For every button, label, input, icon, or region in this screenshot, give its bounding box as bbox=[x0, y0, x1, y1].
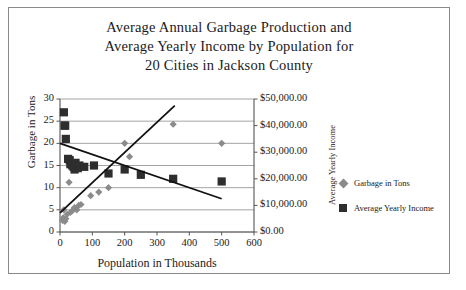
x-axis-title: Population in Thousands bbox=[57, 256, 257, 271]
y-axis-left-title: Garbage in Tons bbox=[25, 82, 37, 182]
data-point-income bbox=[61, 122, 69, 130]
x-tick-label: 100 bbox=[75, 237, 109, 248]
y-tick-label-right: $10,000.00 bbox=[260, 198, 330, 209]
y-tick-label-right: $20,000.00 bbox=[260, 172, 330, 183]
data-point-income bbox=[90, 161, 98, 169]
y-tick-label-right: $0.00 bbox=[260, 225, 330, 236]
data-point-garbage bbox=[170, 121, 177, 128]
y-tick-label-left: 5 bbox=[12, 203, 54, 214]
legend-label-garbage: Garbage in Tons bbox=[354, 178, 410, 188]
data-point-income bbox=[218, 177, 226, 185]
x-tick-label: 600 bbox=[237, 237, 271, 248]
data-point-garbage bbox=[126, 153, 133, 160]
y-tick-label-right: $30,000.00 bbox=[260, 145, 330, 156]
x-tick-label: 0 bbox=[43, 237, 77, 248]
data-point-garbage bbox=[95, 189, 102, 196]
scatter-plot-svg bbox=[9, 8, 451, 275]
y-tick-label-left: 10 bbox=[12, 181, 54, 192]
data-point-garbage bbox=[105, 184, 112, 191]
data-point-garbage bbox=[65, 179, 72, 186]
data-point-garbage bbox=[218, 140, 225, 147]
data-point-income bbox=[62, 135, 70, 143]
legend-item-garbage: Garbage in Tons bbox=[336, 174, 448, 192]
square-marker-icon bbox=[336, 204, 350, 212]
x-tick-label: 500 bbox=[205, 237, 239, 248]
chart-legend: Garbage in Tons Average Yearly Income bbox=[336, 174, 448, 224]
y-tick-label-right: $40,000.00 bbox=[260, 119, 330, 130]
x-tick-label: 200 bbox=[108, 237, 142, 248]
figure-frame: Average Annual Garbage Production and Av… bbox=[8, 7, 450, 274]
diamond-marker-icon bbox=[336, 180, 350, 187]
data-point-garbage bbox=[121, 140, 128, 147]
y-tick-label-left: 0 bbox=[12, 225, 54, 236]
x-tick-label: 400 bbox=[172, 237, 206, 248]
y-tick-label-right: $50,000.00 bbox=[260, 92, 330, 103]
legend-item-income: Average Yearly Income bbox=[336, 199, 448, 217]
data-point-income bbox=[60, 108, 68, 116]
data-point-garbage bbox=[87, 192, 94, 199]
plot-area: 051015202530$0.00$10,000.00$20,000.00$30… bbox=[9, 8, 451, 275]
x-tick-label: 300 bbox=[140, 237, 174, 248]
data-point-income bbox=[80, 163, 88, 171]
legend-label-income: Average Yearly Income bbox=[354, 203, 434, 213]
